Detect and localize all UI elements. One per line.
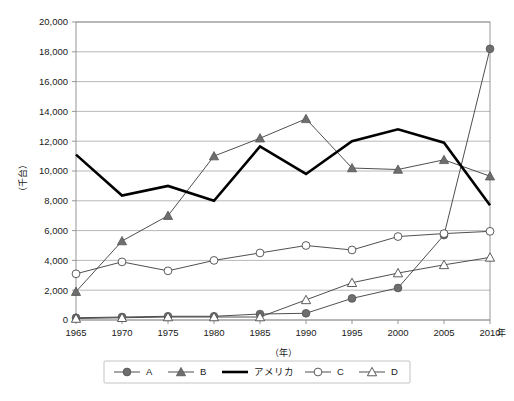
- marker-c-1990: [302, 242, 310, 250]
- x-tick-label: 1970: [111, 327, 132, 338]
- marker-c-1985: [256, 249, 264, 257]
- x-tick-label: 1980: [203, 327, 224, 338]
- y-axis-title: （千台）: [17, 160, 28, 196]
- x-tick-label: 1965: [65, 327, 86, 338]
- x-tick-label: 2000: [387, 327, 408, 338]
- chart-canvas: 02,0004,0006,0008,00010,00012,00014,0001…: [0, 0, 514, 401]
- y-tick-label: 0: [63, 314, 68, 325]
- x-tick-label: 1975: [157, 327, 178, 338]
- legend-item-label: B: [200, 366, 206, 377]
- legend-item-label: A: [146, 366, 153, 377]
- marker-d-1990: [301, 295, 310, 303]
- marker-b-1970: [117, 236, 126, 244]
- y-tick-label: 6,000: [44, 225, 68, 236]
- y-axis-tick-labels: 02,0004,0006,0008,00010,00012,00014,0001…: [39, 16, 68, 325]
- y-tick-label: 10,000: [39, 165, 68, 176]
- series-lines: [76, 49, 490, 319]
- marker-c-2005: [440, 230, 448, 238]
- marker-a-1990: [302, 309, 310, 317]
- marker-b-1975: [163, 211, 172, 219]
- marker-c-1980: [210, 257, 218, 265]
- y-tick-label: 14,000: [39, 106, 68, 117]
- x-tick-label: 1990: [295, 327, 316, 338]
- axis-tickmarks: [72, 22, 490, 324]
- marker-b-1990: [301, 114, 310, 122]
- marker-b-2005: [439, 155, 448, 163]
- legend-item-label: アメリカ: [254, 366, 294, 377]
- marker-a-2000: [394, 284, 402, 292]
- y-tick-label: 12,000: [39, 136, 68, 147]
- marker-a-1995: [348, 294, 356, 302]
- y-tick-label: 4,000: [44, 255, 68, 266]
- series-line-b: [76, 119, 490, 292]
- marker-c-1995: [348, 246, 356, 254]
- marker-c-2000: [394, 233, 402, 241]
- chart-legend[interactable]: ABアメリカCD: [104, 361, 410, 383]
- legend-item-label: D: [391, 366, 398, 377]
- series-line-america: [76, 129, 490, 205]
- x-axis-tick-labels: 1965197019751980198519901995200020052010…: [65, 327, 505, 338]
- x-tick-label: 1985: [249, 327, 270, 338]
- x-tick-label: 2005: [433, 327, 454, 338]
- marker-c-2010: [486, 227, 494, 235]
- marker-c-1965: [72, 270, 80, 278]
- marker-b-2010: [485, 172, 494, 180]
- y-tick-label: 8,000: [44, 195, 68, 206]
- y-tick-label: 2,000: [44, 285, 68, 296]
- series-markers: [71, 45, 494, 322]
- series-line-d: [76, 257, 490, 318]
- marker-b-1985: [255, 134, 264, 142]
- gridlines: [76, 22, 490, 320]
- x-tick-label: 1995: [341, 327, 362, 338]
- marker-c-1975: [164, 267, 172, 275]
- legend-item-label: C: [337, 366, 344, 377]
- marker-b-1980: [209, 152, 218, 160]
- y-tick-label: 18,000: [39, 46, 68, 57]
- series-line-a: [76, 49, 490, 318]
- marker-d-2010: [485, 253, 494, 261]
- y-tick-label: 20,000: [39, 16, 68, 27]
- x-axis-title: （年）: [270, 347, 297, 358]
- marker-a-2010: [486, 45, 494, 53]
- legend-swatch-marker: [314, 368, 322, 376]
- y-tick-label: 16,000: [39, 76, 68, 87]
- line-chart: 02,0004,0006,0008,00010,00012,00014,0001…: [0, 0, 514, 401]
- marker-c-1970: [118, 258, 126, 266]
- x-axis-unit-label: 年: [497, 327, 506, 338]
- legend-swatch-marker: [123, 368, 131, 376]
